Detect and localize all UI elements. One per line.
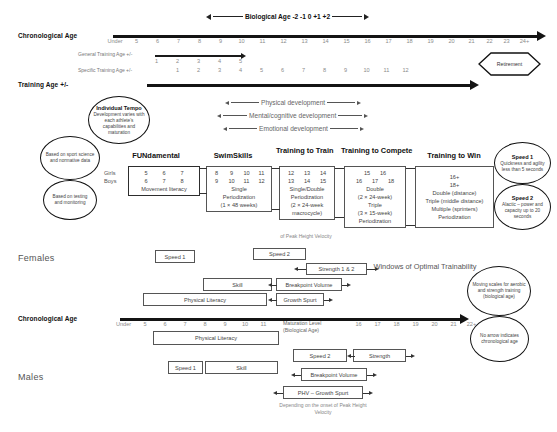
- general-training-age-ticks: 1 2 3 4 5: [146, 58, 256, 64]
- females-box-physical-literacy[interactable]: Physical Literacy: [143, 293, 267, 306]
- arrow-right-head: [364, 114, 368, 118]
- boys-ages-row: 6 7 8: [129, 177, 199, 185]
- stage-detail-line: Multiple (sprinters): [431, 205, 477, 213]
- boys-ages-row: 16 17 18: [345, 177, 405, 185]
- males-phv-right-arrow: [363, 391, 373, 395]
- females-strength-left-arrow: [294, 267, 306, 271]
- arrow-shaft: [330, 128, 358, 129]
- girls-ages-row: 16+: [450, 173, 460, 181]
- chronological-age-label: Chronological Age: [18, 32, 77, 39]
- stage-box-training-to-train[interactable]: 12 13 14 13 14 15 Single/Double Periodiz…: [279, 166, 335, 220]
- males-box-speed-2[interactable]: Speed 2: [293, 349, 347, 362]
- arrow-left-head: [225, 101, 229, 105]
- males-breakpoint-right-arrow: [367, 373, 377, 377]
- phv-caption-top: of Peak Height Velocity: [266, 233, 346, 240]
- girls-label: Girls: [104, 169, 116, 177]
- arrow-left-head: [217, 114, 221, 118]
- arrow-right-head: [357, 101, 361, 105]
- arrow-shaft: [272, 300, 277, 301]
- arrow-right-head: [364, 14, 369, 20]
- arrow-right-head: [347, 283, 351, 287]
- ltad-diagram: Biological Age -2 -1 0 +1 +2 Chronologic…: [0, 0, 557, 432]
- stage-connector: [406, 168, 415, 169]
- stage-detail-line: (2 × 24-week: [291, 201, 324, 209]
- testing-monitoring-circle: Based on testing and monitoring: [43, 180, 97, 220]
- stage-detail-line: Triple (middle distance): [426, 197, 484, 205]
- males-box-breakpoint-volume[interactable]: Breakpoint Volume: [301, 368, 367, 381]
- females-box-breakpoint-volume[interactable]: Breakpoint Volume: [276, 278, 342, 291]
- males-strength-right-arrow: [406, 354, 415, 358]
- stage-connector: [272, 209, 280, 210]
- bottom-age-scale-right: 16 17 18 19 20 21 22+: [349, 321, 480, 327]
- emotional-development-arrow: Emotional development: [223, 125, 364, 132]
- females-label: Females: [18, 253, 55, 263]
- stage-connector: [335, 168, 344, 169]
- girls-ages-row: 15 16: [345, 169, 405, 177]
- females-breakpoint-right-arrow: [342, 283, 351, 287]
- boys-ages-row: 9 10 11 12: [207, 177, 271, 185]
- stage-title-training-to-compete: Training to Compete: [341, 146, 407, 155]
- males-label: Males: [18, 372, 44, 382]
- stage-connector: [335, 217, 344, 218]
- males-box-speed-1[interactable]: Speed 1: [168, 361, 203, 374]
- females-box-skill[interactable]: Skill: [203, 278, 272, 291]
- females-box-speed-2[interactable]: Speed 2: [253, 248, 306, 260]
- girls-ages-row: 5 6 7: [129, 169, 199, 177]
- arrow-left-head: [223, 127, 227, 131]
- males-box-physical-literacy[interactable]: Physical Literacy: [153, 331, 279, 345]
- females-box-strength[interactable]: Strength 1 & 2: [306, 263, 367, 275]
- stage-box-swimskills[interactable]: 8 9 10 11 9 10 11 12 Single Periodizatio…: [206, 166, 272, 212]
- moving-scales-circle: Moving scales for aerobic and strength t…: [467, 266, 531, 316]
- stage-detail-line: Periodization: [291, 193, 323, 201]
- arrow-shaft: [298, 269, 306, 270]
- females-box-growth-spurt[interactable]: Growth Spurt: [276, 293, 324, 306]
- girls-ages-row: 12 13 14: [280, 169, 334, 177]
- girls-ages-row: 8 9 10 11: [207, 169, 271, 177]
- arrow-shaft: [338, 115, 362, 116]
- stage-detail-line: Triple: [368, 201, 382, 209]
- males-box-skill[interactable]: Skill: [205, 361, 278, 374]
- axis-shaft: [147, 84, 470, 87]
- males-breakpoint-left-arrow: [291, 373, 301, 377]
- stage-detail-line: Movement literacy: [141, 185, 186, 193]
- females-breakpoint-left-arrow: [268, 283, 277, 287]
- biological-age-header: Biological Age -2 -1 0 +1 +2: [206, 13, 391, 20]
- arrow-shaft: [229, 128, 257, 129]
- stage-box-fundamental[interactable]: 5 6 7 6 7 8 Movement literacy: [128, 166, 200, 196]
- retirement-hexagon: Retirement: [478, 52, 541, 76]
- stage-box-training-to-win[interactable]: 16+ 18+ Double (distance) Triple (middle…: [415, 166, 494, 228]
- males-phv-left-arrow: [273, 391, 283, 395]
- training-age-label: Training Age +/-: [18, 81, 68, 88]
- stage-detail-line: Single: [231, 185, 247, 193]
- stage-detail-line: Double: [366, 185, 384, 193]
- arrow-right-head: [411, 354, 415, 358]
- stage-detail-line: (3 × 15-week): [358, 209, 392, 217]
- stage-connector: [406, 225, 415, 226]
- stage-connector: [272, 168, 280, 169]
- arrow-shaft: [272, 285, 277, 286]
- arrow-shaft: [332, 16, 362, 17]
- males-box-phv-growth-spurt[interactable]: PHV – Growth Spurt: [283, 386, 363, 399]
- females-box-speed-1[interactable]: Speed 1: [155, 250, 195, 263]
- boys-label: Boys: [104, 177, 116, 185]
- arrow-shaft: [213, 16, 243, 17]
- stage-box-training-to-compete[interactable]: 15 16 16 17 18 Double (2 × 24-week) Trip…: [344, 166, 406, 228]
- stage-title-training-to-win: Training to Win: [412, 151, 496, 160]
- stage-detail-line: (2 × 24-week): [358, 193, 392, 201]
- age-scale-top: Under 5 6 7 8 9 10 11 12 13 14 15 16 17 …: [104, 38, 546, 44]
- arrow-left-head: [206, 14, 211, 20]
- retirement-label: Retirement: [478, 52, 541, 76]
- stage-detail-line: Periodization: [359, 217, 391, 225]
- individual-tempo-circle: Individual Tempo Development varies with…: [88, 96, 150, 144]
- specific-training-age-label: Specific Training Age +/-: [78, 67, 132, 73]
- males-phv-caption: Depending on the onset of Peak Height Ve…: [273, 402, 373, 415]
- arrow-shaft: [295, 375, 301, 376]
- stage-title-training-to-train: Training to Train: [276, 146, 332, 155]
- stage-detail-line: Double (distance): [433, 189, 477, 197]
- males-box-strength[interactable]: Strength: [353, 349, 406, 362]
- arrow-right-head: [360, 127, 364, 131]
- physical-development-arrow: Physical development: [225, 99, 361, 106]
- stage-detail-line: macrocycle): [292, 209, 322, 217]
- boys-ages-row: 13 14 15: [280, 177, 334, 185]
- arrow-shaft: [327, 102, 355, 103]
